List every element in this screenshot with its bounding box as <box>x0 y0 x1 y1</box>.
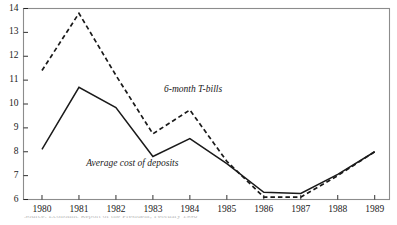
y-tick-label: 8 <box>3 147 19 157</box>
x-tick-label: 1986 <box>244 205 284 215</box>
y-tick-label: 14 <box>3 4 19 14</box>
y-tick-label: 9 <box>3 123 19 133</box>
x-tick-label: 1989 <box>355 205 395 215</box>
series-label-tbills: 6-month T-bills <box>164 85 222 95</box>
figure-caption-text: Source: Economic Report of the President… <box>24 216 198 220</box>
y-tick-label: 11 <box>3 75 19 85</box>
series-label-deposits: Average cost of deposits <box>86 159 178 169</box>
chart-plot-area <box>0 0 397 225</box>
x-tick-label: 1988 <box>318 205 358 215</box>
y-tick-label: 7 <box>3 171 19 181</box>
figure-caption: Source: Economic Report of the President… <box>0 216 397 225</box>
y-tick-label: 10 <box>3 99 19 109</box>
chart-background <box>0 0 397 225</box>
y-tick-label: 13 <box>3 27 19 37</box>
chart-figure: 67891011121314 1980198119821983198419851… <box>0 0 397 225</box>
x-tick-label: 1980 <box>22 205 62 215</box>
x-tick-label: 1982 <box>96 205 136 215</box>
x-tick-label: 1981 <box>59 205 99 215</box>
y-tick-label: 12 <box>3 51 19 61</box>
x-tick-label: 1984 <box>170 205 210 215</box>
x-tick-label: 1985 <box>207 205 247 215</box>
y-tick-label: 6 <box>3 195 19 205</box>
x-tick-label: 1983 <box>133 205 173 215</box>
x-tick-label: 1987 <box>281 205 321 215</box>
